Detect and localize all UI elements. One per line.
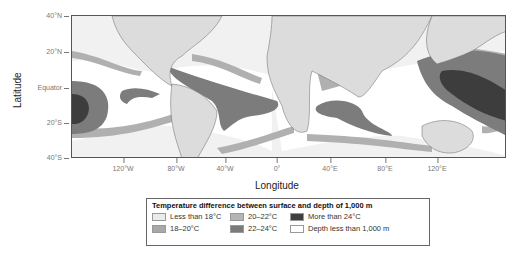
ytick-20s: 20°S [47,119,62,126]
xtick-80e: 80°E [377,165,392,172]
swatch-more-24 [290,213,304,221]
legend-item-18-20: 18–20°C [152,224,230,233]
xtick-40e: 40°E [322,165,337,172]
ytick-40s: 40°S [47,154,62,161]
xtick-0: 0° [274,165,281,172]
xtick-80w: 80°W [167,165,184,172]
ytick-20n: 20°N [46,48,62,55]
ocean-temperature-map [71,15,506,158]
legend-item-more-24: More than 24°C [290,212,410,221]
swatch-shallow [290,225,304,233]
map-legend: Temperature difference between surface a… [146,198,430,246]
swatch-20-22 [230,213,244,221]
legend-item-less-18: Less than 18°C [152,212,230,221]
ytick-40n: 40°N [46,12,62,19]
legend-item-22-24: 22–24°C [230,224,290,233]
legend-item-20-22: 20–22°C [230,212,290,221]
latitude-axis-label: Latitude [12,72,23,108]
legend-title: Temperature difference between surface a… [152,201,424,210]
xtick-120e: 120°E [427,165,446,172]
xtick-120w: 120°W [112,165,133,172]
ytick-equator: Equator [37,84,62,91]
swatch-18-20 [152,225,166,233]
longitude-axis-label: Longitude [255,180,299,191]
swatch-22-24 [230,225,244,233]
swatch-less-18 [152,213,166,221]
legend-item-shallow: Depth less than 1,000 m [290,224,410,233]
xtick-40w: 40°W [216,165,233,172]
map-svg [72,16,506,158]
